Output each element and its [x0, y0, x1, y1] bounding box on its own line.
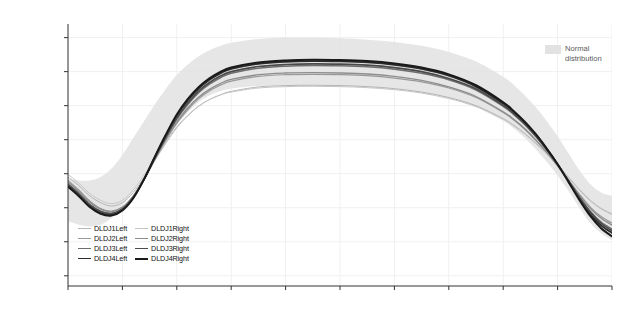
legend-item-label: DLDJ3Right: [151, 244, 189, 253]
plot-clip-right: [612, 0, 635, 326]
legend-swatch: [78, 258, 91, 259]
plot-clip-bottom: [0, 287, 635, 326]
legend-item-dldj3left[interactable]: DLDJ3Left: [78, 244, 127, 253]
legend-item-dldj1left[interactable]: DLDJ1Left: [78, 224, 127, 233]
legend-swatch: [78, 248, 91, 249]
plot-clip-left: [0, 0, 68, 326]
legend-swatch: [135, 248, 148, 249]
legend-swatch: [135, 258, 148, 260]
legend-item-label: DLDJ2Left: [94, 234, 127, 243]
legend-swatch: [78, 228, 91, 229]
legend-swatch: [78, 238, 91, 239]
normal-distribution-legend: Normal distribution: [545, 44, 602, 63]
legend-item-label: DLDJ1Left: [94, 224, 127, 233]
chart-figure: Ankle angles (sagittal) (-) plantarflexi…: [0, 0, 635, 326]
plot-clip-top: [0, 0, 635, 24]
legend-item-dldj2right[interactable]: DLDJ2Right: [135, 234, 189, 243]
normal-distribution-label-line1: Normal: [565, 44, 602, 54]
legend-item-label: DLDJ3Left: [94, 244, 127, 253]
series-legend: DLDJ1LeftDLDJ1RightDLDJ2LeftDLDJ2RightDL…: [78, 224, 189, 263]
normal-distribution-swatch: [545, 45, 561, 54]
normal-distribution-label-line2: distribution: [565, 54, 602, 64]
legend-item-dldj3right[interactable]: DLDJ3Right: [135, 244, 189, 253]
legend-item-label: DLDJ1Right: [151, 224, 189, 233]
plot-area: [0, 0, 635, 326]
legend-item-label: DLDJ2Right: [151, 234, 189, 243]
legend-item-dldj1right[interactable]: DLDJ1Right: [135, 224, 189, 233]
legend-swatch: [135, 238, 148, 239]
legend-item-dldj2left[interactable]: DLDJ2Left: [78, 234, 127, 243]
legend-item-dldj4left[interactable]: DLDJ4Left: [78, 254, 127, 263]
legend-swatch: [135, 228, 148, 229]
legend-item-dldj4right[interactable]: DLDJ4Right: [135, 254, 189, 263]
legend-item-label: DLDJ4Right: [151, 254, 189, 263]
legend-item-label: DLDJ4Left: [94, 254, 127, 263]
